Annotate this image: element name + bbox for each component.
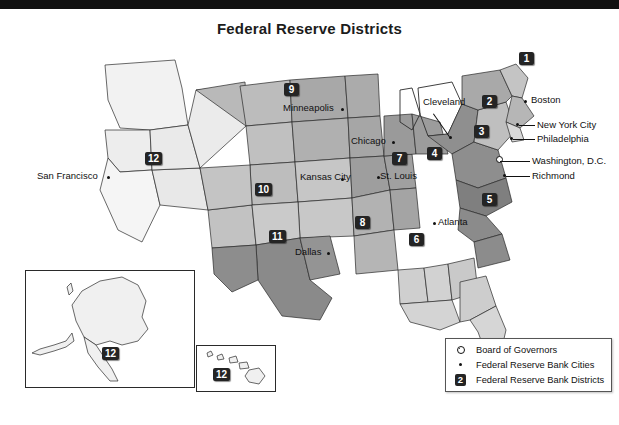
legend-item-bank-districts[interactable]: 2 Federal Reserve Bank Districts (454, 372, 604, 387)
leader-line-richmond (506, 176, 530, 177)
leader-line-new-york-city (519, 125, 535, 126)
city-label-richmond: Richmond (532, 170, 575, 181)
top-black-bar (0, 0, 619, 9)
city-label-cleveland: Cleveland (423, 96, 465, 107)
city-label-chicago: Chicago (351, 135, 386, 146)
district-badge-2[interactable]: 2 (482, 95, 497, 108)
alaska-district-badge[interactable]: 12 (102, 347, 119, 360)
district-badge-10[interactable]: 10 (255, 183, 272, 196)
hawaii-inset[interactable]: 12 (196, 345, 276, 392)
leader-line-philadelphia (513, 139, 535, 140)
city-label-kansas-city: Kansas City (300, 171, 342, 182)
city-label-dallas: Dallas (295, 246, 321, 257)
district-badge-4[interactable]: 4 (427, 147, 442, 160)
legend-label-bank-cities: Federal Reserve Bank Cities (476, 360, 594, 370)
map-canvas[interactable]: 1 2 3 4 5 6 7 8 9 10 11 12 Boston New Yo… (0, 30, 619, 390)
city-label-minneapolis: Minneapolis (283, 102, 334, 113)
bank-city-dot-icon (454, 363, 467, 367)
legend-badge-number: 2 (455, 374, 466, 386)
city-label-washington-dc: Washington, D.C. (532, 155, 606, 166)
kansas-city-line: Kansas City (300, 171, 351, 182)
legend-item-bank-cities[interactable]: Federal Reserve Bank Cities (454, 357, 594, 372)
city-label-san-francisco: San Francisco (37, 170, 98, 181)
legend-item-board-of-governors[interactable]: Board of Governors (454, 342, 557, 357)
district-badge-7[interactable]: 7 (392, 152, 407, 165)
legend-label-board-of-governors: Board of Governors (476, 345, 557, 355)
city-label-philadelphia: Philadelphia (537, 133, 589, 144)
district-badge-3[interactable]: 3 (474, 125, 489, 138)
city-label-st-louis: St. Louis (380, 170, 417, 181)
board-of-governors-icon (454, 346, 467, 354)
leader-line-washington-dc (500, 161, 530, 162)
city-label-atlanta: Atlanta (438, 216, 468, 227)
alaska-shape (26, 271, 192, 385)
legend-box[interactable]: Board of Governors Federal Reserve Bank … (445, 338, 612, 392)
district-badge-5[interactable]: 5 (482, 193, 497, 206)
district-badge-9[interactable]: 9 (284, 83, 299, 96)
district-badge-11[interactable]: 11 (269, 230, 286, 243)
alaska-inset[interactable]: 12 (25, 270, 195, 388)
district-badge-12[interactable]: 12 (145, 152, 162, 165)
district-badge-6[interactable]: 6 (409, 233, 424, 246)
district-badge-icon: 2 (454, 374, 467, 386)
district-badge-1[interactable]: 1 (519, 52, 534, 65)
hawaii-district-badge[interactable]: 12 (213, 368, 230, 381)
district-badge-8[interactable]: 8 (355, 216, 370, 229)
hawaii-shape (197, 346, 273, 389)
city-label-boston: Boston (531, 94, 561, 105)
legend-label-bank-districts: Federal Reserve Bank Districts (476, 375, 604, 385)
city-label-new-york-city: New York City (537, 119, 596, 130)
